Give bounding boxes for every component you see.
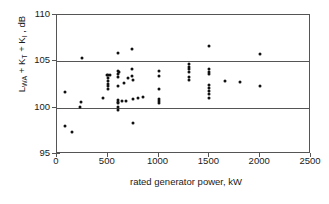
data-point [208,97,211,100]
data-point [116,51,119,54]
data-point [79,105,82,108]
data-point [188,78,191,81]
data-point [79,101,82,104]
data-point [223,79,226,82]
x-tick-label-1000: 1000 [138,156,178,166]
data-point [157,102,160,105]
data-point [259,85,262,88]
y-axis-title-text: LWA + KT + KI , dB [16,16,27,92]
data-point [81,57,84,60]
data-point [188,70,191,73]
scatter-chart-figure: LWA + KT + KI , dB 95100105110 050010001… [0,0,329,204]
data-point [259,52,262,55]
data-point [132,98,135,101]
x-tick-label-2000: 2000 [239,156,279,166]
data-point [64,125,67,128]
data-point [116,85,119,88]
data-point [132,78,135,81]
y-tick-label-105: 105 [16,56,50,66]
plot-area [56,14,310,153]
gridline-y-105 [57,61,309,62]
x-axis-title: rated generator power, kW [130,176,320,187]
data-point [71,130,74,133]
data-point [116,108,119,111]
data-point [101,97,104,100]
data-point [157,69,160,72]
x-tick-label-2500: 2500 [290,156,329,166]
data-point [238,80,241,83]
data-point [131,48,134,51]
x-tick-label-0: 0 [36,156,76,166]
data-point [127,77,130,80]
data-point [64,90,67,93]
data-point [137,97,140,100]
y-tick-label-110: 110 [16,9,50,19]
data-point [121,100,124,103]
data-point [208,44,211,47]
x-tick-label-500: 500 [87,156,127,166]
data-point [116,102,119,105]
data-point [208,73,211,76]
data-point [106,88,109,91]
data-point [117,70,120,73]
x-tick-label-1500: 1500 [188,156,228,166]
data-point [157,75,160,78]
data-point [125,100,128,103]
data-point [108,74,111,77]
data-point [208,92,211,95]
data-point [116,76,119,79]
data-point [142,95,145,98]
y-tick-label-100: 100 [16,102,50,112]
data-point [131,75,134,78]
data-point [131,67,134,70]
data-point [132,122,135,125]
data-point [157,88,160,91]
data-point [123,81,126,84]
gridline-y-100 [57,108,309,109]
